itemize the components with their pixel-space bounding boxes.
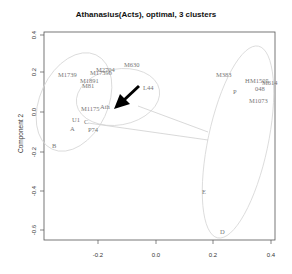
point-label: M1073	[249, 97, 268, 104]
x-tick-label: 0.0	[152, 252, 161, 258]
point-label: M383	[216, 71, 232, 78]
point-label: P74	[88, 126, 99, 133]
point-label: C	[84, 118, 88, 125]
point-label: M1739b	[90, 69, 112, 76]
x-tick-label: 0.2	[209, 252, 218, 258]
point-label: E	[202, 188, 206, 195]
plot-frame	[44, 32, 275, 240]
point-label: M1175	[81, 105, 100, 112]
cluster-3-ellipse	[188, 40, 287, 244]
arrow-annotation	[114, 86, 139, 109]
y-tick-label: -0.4	[31, 185, 37, 196]
x-axis: -0.2 0.0 0.2 0.4	[93, 240, 276, 258]
point-label: L44	[143, 84, 154, 91]
y-tick-label: 0.2	[31, 67, 37, 76]
point-label: B	[52, 142, 57, 149]
point-label: M630	[124, 61, 140, 68]
point-label: A	[70, 125, 75, 132]
x-tick-label: -0.2	[93, 252, 104, 258]
y-axis: 0.4 0.2 0.0 -0.2 -0.4 -0.6	[31, 30, 44, 235]
point-label: Ath	[100, 103, 111, 110]
point-label: D	[220, 228, 225, 235]
cluster-connectors	[88, 106, 208, 140]
x-tick-label: 0.4	[267, 252, 276, 258]
point-label: M1739	[58, 71, 77, 78]
cluster-1-ellipse	[21, 41, 127, 164]
point-label: M81	[82, 82, 94, 89]
point-labels: M1739 M2704 M1739b M1891 M81 M1175 Ath U…	[52, 61, 278, 235]
point-label: 048	[255, 85, 265, 92]
scatter-plot: 0.4 0.2 0.0 -0.2 -0.4 -0.6 -0.2 0.0 0.2 …	[0, 0, 292, 274]
point-label: U1	[72, 116, 80, 123]
y-tick-label: -0.2	[31, 146, 37, 157]
y-tick-label: 0.4	[31, 30, 37, 39]
y-tick-label: -0.6	[31, 224, 37, 235]
point-label: P	[233, 88, 237, 95]
